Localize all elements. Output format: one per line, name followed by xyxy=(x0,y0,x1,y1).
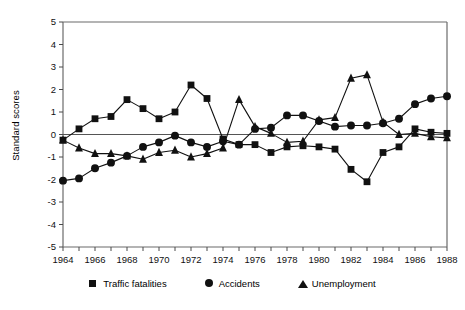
svg-text:1978: 1978 xyxy=(276,254,297,265)
line-chart-plot-area: -5-4-3-2-1012345196419661968197019721974… xyxy=(0,0,465,275)
triangle-marker-icon xyxy=(298,279,307,288)
svg-text:-4: -4 xyxy=(48,219,56,230)
svg-text:1968: 1968 xyxy=(116,254,137,265)
svg-text:-5: -5 xyxy=(48,241,56,252)
legend-label: Accidents xyxy=(219,278,260,289)
svg-text:2: 2 xyxy=(51,84,56,95)
svg-text:1988: 1988 xyxy=(436,254,457,265)
svg-text:5: 5 xyxy=(51,16,56,27)
legend-item-accidents: Accidents xyxy=(205,278,260,289)
svg-text:-1: -1 xyxy=(48,151,56,162)
svg-text:1970: 1970 xyxy=(148,254,169,265)
svg-text:-3: -3 xyxy=(48,196,56,207)
legend-label: Unemployment xyxy=(312,278,376,289)
svg-text:1974: 1974 xyxy=(212,254,233,265)
svg-text:1966: 1966 xyxy=(84,254,105,265)
svg-text:4: 4 xyxy=(51,39,56,50)
svg-text:3: 3 xyxy=(51,61,56,72)
square-marker-icon xyxy=(89,279,98,288)
svg-text:0: 0 xyxy=(51,129,56,140)
legend-item-traffic-fatalities: Traffic fatalities xyxy=(89,278,166,289)
svg-text:1976: 1976 xyxy=(244,254,265,265)
svg-text:1982: 1982 xyxy=(340,254,361,265)
legend-item-unemployment: Unemployment xyxy=(298,278,376,289)
svg-text:1972: 1972 xyxy=(180,254,201,265)
chart-legend: Traffic fatalities Accidents Unemploymen… xyxy=(0,278,465,289)
svg-text:1984: 1984 xyxy=(372,254,393,265)
svg-text:-2: -2 xyxy=(48,174,56,185)
svg-text:1986: 1986 xyxy=(404,254,425,265)
svg-text:1980: 1980 xyxy=(308,254,329,265)
chart-figure: Standard scores -5-4-3-2-101234519641966… xyxy=(0,0,465,310)
svg-text:1964: 1964 xyxy=(52,254,73,265)
svg-text:1: 1 xyxy=(51,106,56,117)
circle-marker-icon xyxy=(205,279,214,288)
legend-label: Traffic fatalities xyxy=(103,278,166,289)
